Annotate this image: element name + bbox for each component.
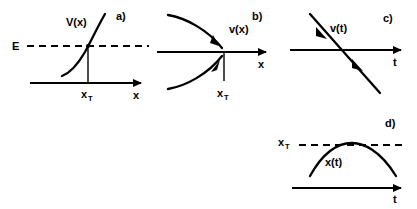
panel-d-tag: d)	[385, 117, 396, 129]
panel-b-turning-point-label: x	[217, 87, 224, 99]
panel-a-turning-point-label: x	[81, 88, 88, 100]
physics-figure: E V(x) a) x T x v(x) b) x	[0, 0, 417, 209]
panel-a-turning-point-sub: T	[88, 94, 93, 103]
panel-d-tangency-dot	[350, 142, 354, 146]
panel-c: v(t) c) t	[290, 12, 401, 93]
panel-a-tag: a)	[116, 10, 126, 22]
panel-d-t-axis-label: t	[393, 193, 397, 205]
panel-d-curve-label: x(t)	[325, 156, 342, 168]
panel-a: E V(x) a) x T x	[12, 10, 149, 103]
panel-b-velocity-curve-lower	[168, 56, 222, 89]
panel-d-position-curve	[310, 143, 396, 176]
panel-a-curve-label: V(x)	[66, 16, 87, 28]
panel-c-tag: c)	[383, 12, 393, 24]
panel-a-intersection-dot	[86, 44, 90, 48]
panel-b-x-axis-label: x	[258, 58, 265, 70]
panel-c-t-axis-label: t	[393, 56, 397, 68]
panel-d-turning-point-label: x	[278, 136, 285, 148]
panel-b-curve-label: v(x)	[229, 23, 249, 35]
panel-d-turning-point-sub: T	[285, 142, 290, 151]
panel-a-x-axis-label: x	[133, 89, 140, 101]
panel-c-flow-arrow-lower	[352, 59, 363, 71]
panel-b-turning-point-sub: T	[224, 93, 229, 102]
panel-d: x T x(t) d) t	[278, 117, 404, 205]
panel-b: v(x) b) x T x	[157, 10, 266, 102]
panel-a-energy-label: E	[12, 40, 19, 52]
panel-c-curve-label: v(t)	[330, 22, 347, 34]
panel-b-tag: b)	[252, 10, 263, 22]
